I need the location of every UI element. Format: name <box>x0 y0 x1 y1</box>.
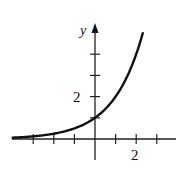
y-axis-arrow-icon <box>92 23 99 33</box>
y-axis-label: y <box>78 23 87 38</box>
curve-exponential <box>13 33 143 138</box>
y-tick-label-2: 2 <box>73 89 81 105</box>
exponential-graph: y 2 2 <box>0 0 176 172</box>
x-tick-label-2: 2 <box>131 147 139 163</box>
